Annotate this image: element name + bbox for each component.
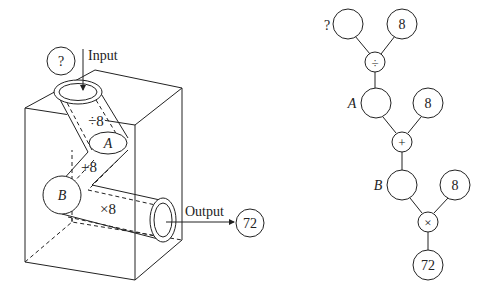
tree-node-input	[333, 9, 363, 39]
node-a-ellipse: A	[89, 132, 127, 154]
divide-operator: ÷	[371, 55, 378, 70]
label-b: B	[58, 188, 67, 203]
tree-label-a: A	[347, 96, 357, 111]
input-value-circle: ?	[47, 47, 75, 75]
label-a: A	[103, 136, 113, 151]
input-label: Input	[88, 48, 118, 63]
tree-node-multiply: ×	[418, 212, 438, 232]
operand-1-value: 8	[399, 17, 406, 32]
tree-node-output: 72	[413, 250, 443, 280]
tree-node-b	[387, 170, 417, 200]
tree-node-add: +	[392, 132, 412, 152]
output-value-circle: 72	[236, 209, 264, 237]
step-multiply-label: ×8	[100, 201, 116, 217]
tree-node-operand-1: 8	[387, 9, 417, 39]
tree-label-b: B	[374, 178, 383, 193]
tree-node-operand-2: 8	[413, 88, 443, 118]
output-value: 72	[243, 216, 257, 231]
multiply-operator: ×	[424, 215, 431, 230]
tree-node-divide: ÷	[365, 52, 385, 72]
tree-input-label: ?	[324, 18, 330, 33]
tree-output-value: 72	[421, 258, 435, 273]
input-value: ?	[58, 54, 64, 69]
function-machine-diagram: A B ÷8 +8 ×8 ? Input Output 72	[0, 0, 490, 291]
output-label: Output	[185, 204, 224, 219]
add-operator: +	[398, 135, 405, 150]
tree-node-a	[361, 88, 391, 118]
operand-2-value: 8	[425, 96, 432, 111]
output-opening	[150, 198, 176, 242]
step-add-label: +8	[81, 159, 97, 175]
machine-box	[25, 70, 182, 280]
machine-pipe	[52, 92, 162, 240]
step-divide-label: ÷8	[88, 113, 104, 129]
node-b-circle: B	[43, 176, 81, 214]
operand-3-value: 8	[452, 178, 459, 193]
input-opening	[54, 80, 102, 104]
tree-node-operand-3: 8	[440, 170, 470, 200]
